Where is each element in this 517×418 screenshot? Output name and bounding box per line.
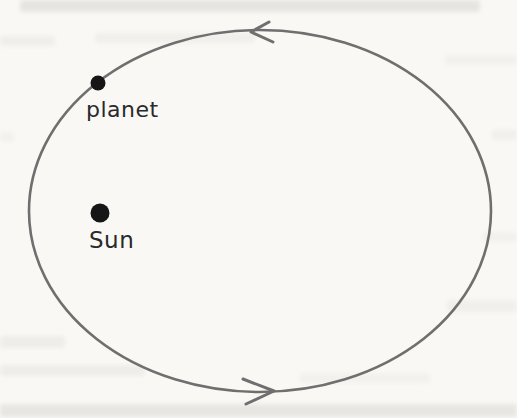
orbit-diagram: planet Sun — [0, 0, 517, 418]
direction-arrow-top-icon — [251, 22, 273, 42]
planet-label: planet — [86, 99, 159, 121]
planet-dot — [91, 76, 106, 91]
sun-label: Sun — [89, 229, 134, 252]
orbit-figure — [0, 0, 517, 418]
sun-dot — [91, 204, 110, 223]
